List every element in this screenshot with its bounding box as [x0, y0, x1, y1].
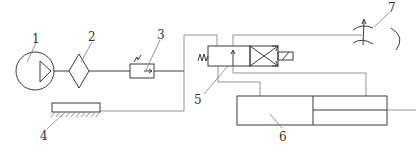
leader-line-4	[47, 115, 62, 129]
leader-line-3	[146, 40, 160, 70]
pipe-valve-to-throttle	[233, 35, 362, 46]
label-cylinder: 6	[279, 130, 287, 144]
leader-line-5	[204, 66, 228, 94]
label-directional-valve: 5	[194, 93, 202, 107]
label-filter: 2	[88, 30, 96, 44]
pump-symbol	[16, 52, 54, 90]
throttle-symbol	[353, 19, 400, 50]
directional-valve-symbol	[198, 46, 293, 66]
tank-symbol	[51, 103, 100, 117]
leader-line-2	[81, 42, 92, 62]
label-throttle: 7	[388, 1, 396, 15]
cylinder-symbol	[237, 96, 416, 125]
label-tank: 4	[40, 129, 48, 143]
label-valve: 3	[157, 28, 165, 42]
hydraulic-diagram: 1 2 3 4	[0, 0, 416, 153]
label-pump: 1	[32, 32, 40, 46]
filter-symbol	[69, 54, 89, 88]
leader-line-6	[270, 114, 282, 128]
pipe-valve-to-cylinder-rod	[233, 66, 366, 96]
pressure-valve-symbol	[130, 55, 154, 78]
